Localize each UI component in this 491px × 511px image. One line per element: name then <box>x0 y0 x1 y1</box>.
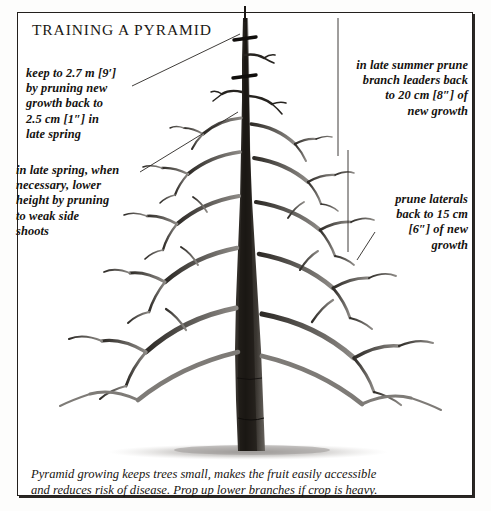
note-line: new growth <box>303 104 468 119</box>
note-line: back to 15 cm <box>358 207 468 222</box>
leader-line-height <box>132 34 240 86</box>
note-line: growth <box>358 238 468 253</box>
late-summer-prune-note: in late summer prune branch leaders back… <box>303 58 468 119</box>
note-line: growth back to <box>26 96 116 111</box>
trunk-shading <box>238 18 257 451</box>
note-line: prune laterals <box>358 192 468 207</box>
caption-line: Pyramid growing keeps trees small, makes… <box>31 466 459 482</box>
note-line: in late summer prune <box>303 58 468 73</box>
leader-line-lower-height <box>140 112 238 172</box>
lower-height-note: in late spring, when necessary, lower he… <box>16 163 119 239</box>
tier-2-branches <box>170 118 332 161</box>
figure-caption: Pyramid growing keeps trees small, makes… <box>31 466 459 498</box>
note-line: late spring <box>26 127 116 142</box>
page-title: TRAINING A PYRAMID <box>32 21 212 39</box>
keep-to-height-note: keep to 2.7 m [9′] by pruning new growth… <box>26 66 116 142</box>
note-line: keep to 2.7 m [9′] <box>26 66 116 81</box>
illustration-page: TRAINING A PYRAMID keep to 2.7 m [9′] by… <box>0 0 491 511</box>
note-line: shoots <box>16 224 119 239</box>
prune-laterals-note: prune laterals back to 15 cm [6″] of new… <box>358 192 468 253</box>
note-line: by pruning new <box>26 81 116 96</box>
note-line: necessary, lower <box>16 178 119 193</box>
caption-line: and reduces risk of disease. Prop up low… <box>31 482 459 498</box>
note-line: branch leaders back <box>303 73 468 88</box>
note-line: height by pruning <box>16 193 119 208</box>
note-line: in late spring, when <box>16 163 119 178</box>
note-line: 2.5 cm [1″] in <box>26 112 116 127</box>
note-line: [6″] of new <box>358 222 468 237</box>
note-line: to weak side <box>16 209 119 224</box>
note-line: to 20 cm [8″] of <box>303 88 468 103</box>
